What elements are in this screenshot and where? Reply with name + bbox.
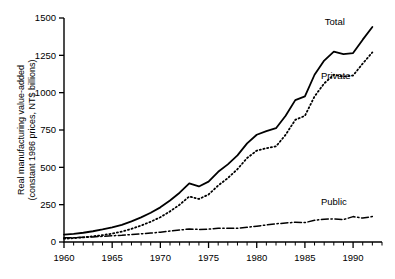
y-tick-label: 1000: [35, 87, 56, 98]
y-tick-label: 250: [40, 199, 56, 210]
y-axis-label: Real manufacturing value-added(constant …: [16, 59, 37, 200]
x-tick-label: 1965: [102, 252, 123, 263]
series-label-total: Total: [325, 16, 345, 27]
chart-container: 0250500750100012501500196019651970197519…: [0, 0, 395, 279]
y-tick-label: 500: [40, 162, 56, 173]
x-tick-label: 1970: [150, 252, 171, 263]
y-tick-label: 750: [40, 124, 56, 135]
x-tick-label: 1975: [198, 252, 219, 263]
y-tick-label: 1250: [35, 50, 56, 61]
series-label-public: Public: [321, 196, 347, 207]
y-axis-label-line: Real manufacturing value-added: [16, 65, 26, 195]
x-tick-label: 1960: [53, 252, 74, 263]
x-tick-label: 1985: [294, 252, 315, 263]
line-chart: 0250500750100012501500196019651970197519…: [0, 0, 395, 279]
y-tick-label: 0: [51, 236, 56, 247]
x-tick-label: 1990: [343, 252, 364, 263]
y-axis-label-line: (constant 1986 prices, NT$ billions): [27, 59, 37, 200]
x-tick-label: 1980: [246, 252, 267, 263]
series-label-private: Private: [321, 70, 351, 81]
y-tick-label: 1500: [35, 12, 56, 23]
